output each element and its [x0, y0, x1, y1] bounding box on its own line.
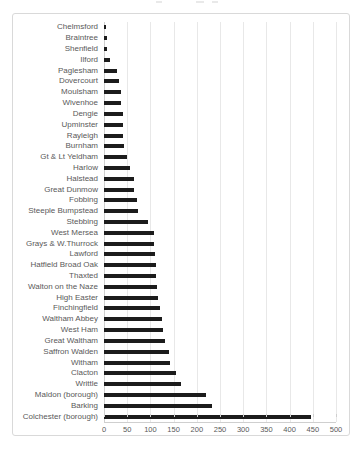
category-label: Colchester (borough): [12, 413, 98, 421]
bar: [104, 285, 157, 289]
bar: [104, 274, 156, 278]
category-label: Writtle: [12, 380, 98, 388]
category-label: West Mersea: [12, 229, 98, 237]
bar: [104, 25, 106, 29]
category-label: Moulsham: [12, 88, 98, 96]
category-label: Finchingfield: [12, 304, 98, 312]
chart-frame: ChelmsfordBraintreeShenfieldIlfordPagles…: [12, 13, 350, 436]
bar: [104, 101, 121, 105]
bar: [104, 188, 134, 192]
category-label: Barking: [12, 402, 98, 410]
category-label: Saffron Walden: [12, 348, 98, 356]
bar: [104, 382, 181, 386]
x-axis-tick-label: 450: [307, 426, 320, 434]
gridline: [197, 22, 198, 422]
category-label: Dengie: [12, 110, 98, 118]
x-axis-tick-label: 100: [144, 426, 157, 434]
axis-tick-mark: [313, 414, 314, 417]
x-axis-tick-label: 150: [167, 426, 180, 434]
bar: [104, 361, 170, 365]
bar: [104, 415, 311, 419]
bar: [104, 155, 127, 159]
category-label: Rayleigh: [12, 132, 98, 140]
category-label: Chelmsford: [12, 23, 98, 31]
x-axis-tick-label: 0: [102, 426, 106, 434]
x-axis-tick-label: 500: [330, 426, 343, 434]
bar: [104, 134, 123, 138]
bar: [104, 296, 158, 300]
axis-tick-mark: [104, 414, 105, 417]
x-axis-tick-label: 50: [123, 426, 131, 434]
category-label: Hatfield Broad Oak: [12, 261, 98, 269]
axis-tick-mark: [127, 414, 128, 417]
gridline: [243, 22, 244, 422]
axis-tick-mark: [336, 414, 337, 417]
category-label: Ilford: [12, 56, 98, 64]
category-label: Halstead: [12, 175, 98, 183]
gridline: [174, 22, 175, 422]
bar: [104, 306, 160, 310]
bar: [104, 231, 154, 235]
bar: [104, 112, 123, 116]
bar: [104, 393, 206, 397]
bar: [104, 242, 154, 246]
category-label: Waltham Abbey: [12, 315, 98, 323]
gridline: [336, 22, 337, 422]
bar: [104, 166, 130, 170]
category-label: High Easter: [12, 294, 98, 302]
category-label: Shenfield: [12, 45, 98, 53]
bar: [104, 209, 138, 213]
bar: [104, 263, 156, 267]
plot-area: [104, 22, 336, 423]
x-axis-tick-label: 250: [214, 426, 227, 434]
category-label: Steeple Bumpstead: [12, 207, 98, 215]
axis-tick-mark: [266, 414, 267, 417]
axis-tick-mark: [197, 414, 198, 417]
cropped-title-remnant: [156, 1, 236, 4]
category-label: Great Dunmow: [12, 186, 98, 194]
bar: [104, 328, 163, 332]
bar: [104, 404, 212, 408]
x-axis-tick-label: 300: [237, 426, 250, 434]
axis-tick-mark: [150, 414, 151, 417]
bar: [104, 144, 124, 148]
category-label: Dovercourt: [12, 77, 98, 85]
bar: [104, 198, 137, 202]
category-label: Upminster: [12, 121, 98, 129]
category-label: Walton on the Naze: [12, 283, 98, 291]
category-axis-labels: ChelmsfordBraintreeShenfieldIlfordPagles…: [15, 22, 101, 422]
axis-tick-mark: [174, 414, 175, 417]
category-label: Grays & W.Thurrock: [12, 240, 98, 248]
bar: [104, 317, 162, 321]
category-label: Maldon (borough): [12, 391, 98, 399]
gridline: [290, 22, 291, 422]
category-label: Braintree: [12, 34, 98, 42]
bar: [104, 177, 134, 181]
gridline: [220, 22, 221, 422]
gridline: [313, 22, 314, 422]
category-label: Great Waltham: [12, 337, 98, 345]
x-axis-tick-label: 400: [283, 426, 296, 434]
bar: [104, 220, 148, 224]
gridline: [266, 22, 267, 422]
category-label: Clacton: [12, 369, 98, 377]
category-label: Stebbing: [12, 218, 98, 226]
category-label: Witham: [12, 359, 98, 367]
category-label: Paglesham: [12, 67, 98, 75]
category-label: Burnham: [12, 142, 98, 150]
bar: [104, 36, 107, 40]
bar: [104, 252, 155, 256]
category-label: Thaxted: [12, 272, 98, 280]
axis-tick-mark: [243, 414, 244, 417]
bar: [104, 58, 110, 62]
category-label: Lawford: [12, 250, 98, 258]
category-label: Gt & Lt Yeldham: [12, 153, 98, 161]
category-label: West Ham: [12, 326, 98, 334]
category-label: Wivenhoe: [12, 99, 98, 107]
bar: [104, 79, 119, 83]
x-axis-tick-label: 200: [191, 426, 204, 434]
x-axis-tick-label: 350: [260, 426, 273, 434]
axis-tick-mark: [220, 414, 221, 417]
bar: [104, 339, 165, 343]
category-label: Fobbing: [12, 196, 98, 204]
